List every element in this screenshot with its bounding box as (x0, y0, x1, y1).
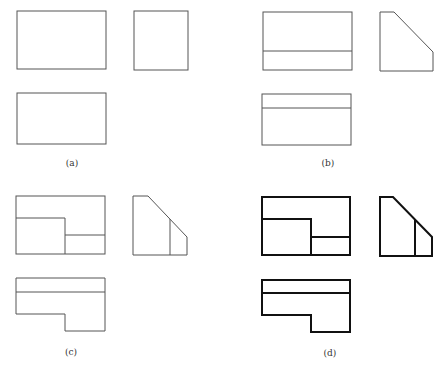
panel-d-front-view (262, 197, 350, 255)
panel-c-front-view (16, 196, 105, 254)
panel-c-top-view (16, 278, 105, 331)
panel-b-label: (b) (322, 158, 335, 168)
panel-b-top-view (262, 94, 351, 145)
panel-a: (a) (17, 11, 188, 168)
panel-a-front-view (17, 11, 106, 69)
panel-d-label: (d) (324, 348, 337, 358)
panel-d-side-view (380, 197, 432, 256)
panel-c: (c) (16, 196, 187, 357)
panel-b-front-view (263, 12, 352, 70)
panel-d: (d) (262, 197, 432, 358)
panel-a-top-view (17, 93, 106, 144)
three-view-drawing-figure: (a) (b) (c) (0, 0, 443, 372)
panel-b: (b) (262, 12, 433, 168)
panel-b-side-view (380, 12, 433, 71)
panel-a-label: (a) (66, 158, 78, 168)
panel-a-side-view (134, 11, 188, 70)
panel-d-top-view (262, 280, 350, 332)
panel-c-side-view (133, 196, 187, 255)
panel-c-label: (c) (65, 347, 77, 357)
